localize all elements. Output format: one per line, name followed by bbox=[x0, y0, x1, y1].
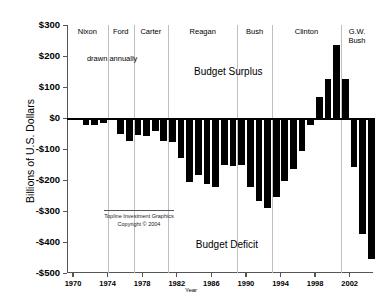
y-tick-mark bbox=[63, 242, 67, 243]
era-label-nixon: Nixon bbox=[67, 28, 108, 37]
era-label-ford: Ford bbox=[108, 28, 134, 37]
bar bbox=[230, 118, 237, 166]
bar bbox=[264, 118, 271, 208]
y-tick-label: $300 bbox=[39, 19, 60, 30]
y-tick-label: -$300 bbox=[36, 205, 60, 216]
x-tick-label: 1994 bbox=[272, 279, 289, 288]
x-tick-mark bbox=[211, 273, 212, 277]
plot-area: NixonFordCarterReaganBushClintonG.W. Bus… bbox=[67, 25, 373, 273]
era-divider bbox=[168, 25, 169, 273]
y-tick-mark bbox=[63, 118, 67, 119]
bar bbox=[290, 118, 297, 169]
y-tick-label: -$200 bbox=[36, 174, 60, 185]
bar bbox=[368, 118, 375, 259]
bar bbox=[212, 118, 219, 187]
x-tick-label: 1990 bbox=[238, 279, 255, 288]
era-label-clinton: Clinton bbox=[272, 28, 341, 37]
x-tick-mark bbox=[107, 273, 108, 277]
x-tick-mark bbox=[280, 273, 281, 277]
y-tick-label: -$500 bbox=[36, 267, 60, 278]
bar bbox=[342, 79, 349, 118]
bar bbox=[135, 118, 142, 135]
annotation-budget-deficit: Budget Deficit bbox=[196, 239, 258, 250]
bar bbox=[126, 118, 133, 141]
bar bbox=[204, 118, 211, 184]
y-tick-mark bbox=[63, 56, 67, 57]
chart-credit: Topline Investment Graphics Copyright © … bbox=[79, 210, 199, 228]
x-tick-label: 1982 bbox=[168, 279, 185, 288]
bar bbox=[316, 97, 323, 118]
y-tick-label: $100 bbox=[39, 81, 60, 92]
x-tick-mark bbox=[245, 273, 246, 277]
y-tick-mark bbox=[63, 25, 67, 26]
bar bbox=[117, 118, 124, 134]
annotation-budget-surplus: Budget Surplus bbox=[194, 66, 262, 77]
x-axis-title: Year bbox=[0, 287, 382, 293]
bar bbox=[325, 79, 332, 118]
credit-line-2: Copyright © 2004 bbox=[79, 220, 199, 228]
y-tick-mark bbox=[63, 273, 67, 274]
y-tick-mark bbox=[63, 87, 67, 88]
bar bbox=[195, 118, 202, 175]
bar bbox=[238, 118, 245, 165]
x-tick-label: 1998 bbox=[307, 279, 324, 288]
x-tick-label: 1974 bbox=[99, 279, 116, 288]
bar bbox=[186, 118, 193, 182]
budget-deficit-chart: Billions of U.S. Dollars Year NixonFordC… bbox=[0, 0, 382, 304]
bar bbox=[169, 118, 176, 142]
annotation-drawn-annually: drawn annually bbox=[87, 54, 137, 63]
y-tick-label: $200 bbox=[39, 50, 60, 61]
era-label-carter: Carter bbox=[134, 28, 169, 37]
bar bbox=[299, 118, 306, 151]
x-tick-label: 1978 bbox=[134, 279, 151, 288]
bar bbox=[351, 118, 358, 167]
bar bbox=[359, 118, 366, 234]
bar bbox=[178, 118, 185, 158]
x-tick-mark bbox=[314, 273, 315, 277]
bar bbox=[247, 118, 254, 187]
bar bbox=[281, 118, 288, 181]
y-tick-label: $0 bbox=[49, 112, 60, 123]
era-divider bbox=[341, 25, 342, 273]
bar bbox=[256, 118, 263, 201]
bar bbox=[221, 118, 228, 165]
bar bbox=[143, 118, 150, 136]
zero-baseline bbox=[67, 118, 373, 120]
era-label-reagan: Reagan bbox=[168, 28, 237, 37]
bar bbox=[160, 118, 167, 141]
x-tick-mark bbox=[176, 273, 177, 277]
bar bbox=[333, 45, 340, 118]
x-tick-mark bbox=[142, 273, 143, 277]
era-label-bush: Bush bbox=[237, 28, 272, 37]
x-tick-label: 1970 bbox=[65, 279, 82, 288]
y-axis-title: Billions of U.S. Dollars bbox=[24, 66, 36, 236]
x-tick-mark bbox=[349, 273, 350, 277]
y-tick-mark bbox=[63, 180, 67, 181]
era-label-g-w-bush: G.W. Bush bbox=[341, 28, 373, 45]
x-tick-mark bbox=[72, 273, 73, 277]
x-tick-label: 1986 bbox=[203, 279, 220, 288]
bar bbox=[273, 118, 280, 197]
y-tick-mark bbox=[63, 211, 67, 212]
bar bbox=[152, 118, 159, 131]
x-tick-label: 2002 bbox=[341, 279, 358, 288]
y-tick-mark bbox=[63, 149, 67, 150]
y-tick-label: -$400 bbox=[36, 236, 60, 247]
y-tick-label: -$100 bbox=[36, 143, 60, 154]
credit-line-1: Topline Investment Graphics bbox=[104, 210, 173, 220]
